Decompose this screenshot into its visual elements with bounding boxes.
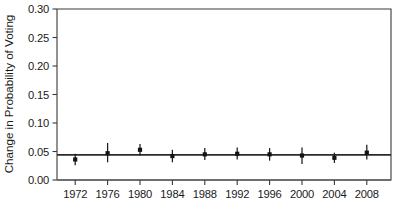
x-tick-label-1980: 1980 (128, 188, 152, 200)
x-tick-label-2000: 2000 (290, 188, 314, 200)
point-marker-1980 (138, 148, 142, 152)
point-marker-2008 (365, 151, 369, 155)
y-axis-title: Change in Probability of Voting (2, 15, 15, 174)
y-tick-label-0.10: 0.10 (28, 117, 49, 129)
x-tick-label-1992: 1992 (225, 188, 249, 200)
y-tick-label-0.05: 0.05 (28, 146, 49, 158)
chart-figure: 0.000.050.100.150.200.250.30 19721976198… (0, 0, 397, 213)
y-tick-label-0.20: 0.20 (28, 60, 49, 72)
x-tick-label-1972: 1972 (63, 188, 87, 200)
chart-background (0, 0, 397, 213)
point-marker-2000 (300, 153, 304, 157)
y-tick-label-0.15: 0.15 (28, 89, 49, 101)
point-marker-1972 (73, 157, 77, 161)
y-tick-label-0.00: 0.00 (28, 174, 49, 186)
y-tick-label-0.30: 0.30 (28, 3, 49, 15)
y-tick-label-0.25: 0.25 (28, 32, 49, 44)
x-tick-label-2008: 2008 (355, 188, 379, 200)
x-tick-label-2004: 2004 (322, 188, 346, 200)
x-tick-label-1996: 1996 (258, 188, 282, 200)
point-marker-2004 (332, 156, 336, 160)
x-tick-label-1988: 1988 (193, 188, 217, 200)
x-tick-label-1976: 1976 (96, 188, 120, 200)
point-marker-1976 (106, 151, 110, 155)
point-marker-1996 (268, 152, 272, 156)
chart-canvas: 0.000.050.100.150.200.250.30 19721976198… (0, 0, 397, 213)
x-tick-label-1984: 1984 (160, 188, 184, 200)
point-marker-1992 (235, 152, 239, 156)
point-marker-1988 (203, 152, 207, 156)
point-marker-1984 (170, 154, 174, 158)
